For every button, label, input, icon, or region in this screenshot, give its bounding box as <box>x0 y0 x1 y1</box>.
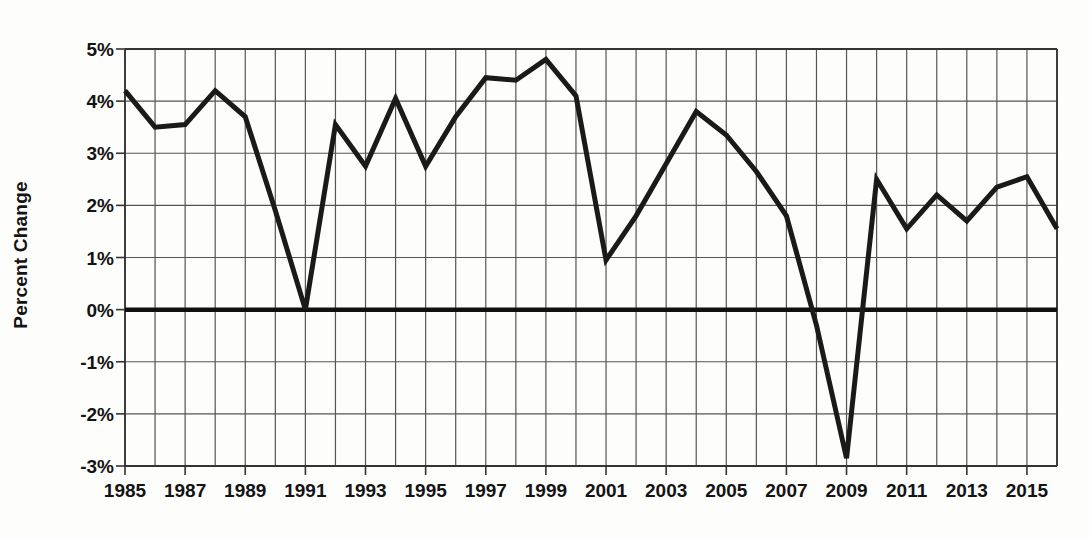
line-plot <box>0 0 1089 538</box>
chart-figure: Percent Change 5%4%3%2%1%0%-1%-2%-3% 198… <box>0 0 1089 538</box>
grid-lines <box>125 49 1057 466</box>
data-series-line <box>125 59 1057 458</box>
axis-tick-marks <box>116 49 1027 475</box>
